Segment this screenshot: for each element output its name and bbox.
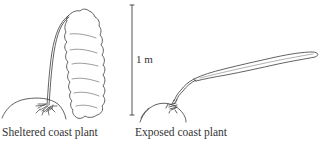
scale-bar-label: 1 m <box>136 53 153 65</box>
kelp-comparison-figure: 1 m Sheltered coast plant Exposed coast … <box>0 0 324 143</box>
sheltered-caption: Sheltered coast plant <box>2 126 98 138</box>
exposed-rock <box>140 103 186 122</box>
sheltered-rock <box>2 98 66 119</box>
exposed-caption: Exposed coast plant <box>135 126 227 138</box>
scale-bar <box>130 5 134 115</box>
illustration <box>0 0 324 143</box>
sheltered-holdfast-icon <box>36 104 57 115</box>
